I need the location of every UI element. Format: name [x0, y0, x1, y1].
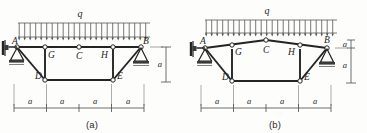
dim-label-b-1: a [215, 96, 219, 106]
figure-page: q [0, 0, 367, 133]
figure-b-caption: (b) [183, 119, 367, 130]
dim-label-a-2: a [60, 96, 64, 106]
label-G: G [235, 47, 242, 57]
label-D: D [221, 72, 229, 82]
label-E: E [116, 71, 123, 81]
hinge-D [43, 78, 47, 82]
label-A: A [11, 36, 18, 46]
vertical-dim-label-b-upper: a [343, 39, 347, 49]
dim-label-b-2: a [247, 96, 251, 106]
load-arrows-a [18, 23, 147, 41]
horizontal-dimension-a: a a a a [14, 84, 144, 112]
hinge-E [111, 78, 115, 82]
vertical-dimension-a: a [150, 47, 171, 82]
distributed-load-a: q [18, 8, 150, 41]
label-A: A [199, 36, 206, 46]
vertical-dim-label-b-lower: a [343, 60, 347, 70]
label-B: B [143, 36, 149, 46]
figure-a-caption: (a) [0, 119, 184, 130]
label-B: B [324, 35, 330, 45]
distributed-load-b: q [205, 5, 337, 37]
support-B-b [319, 49, 335, 67]
label-H: H [287, 47, 296, 57]
dim-label-a-1: a [28, 96, 32, 106]
support-B-a [133, 48, 149, 66]
label-G: G [48, 50, 55, 60]
vertical-dim-label-a: a [158, 59, 162, 69]
label-E: E [303, 72, 310, 82]
member-C-B [266, 40, 327, 48]
dim-label-a-3: a [93, 96, 97, 106]
dim-label-b-4: a [313, 96, 317, 106]
joint-labels-a: A G C H B D E [11, 36, 149, 81]
hinge-E [298, 79, 302, 83]
horizontal-dimension-b: a a a a [201, 85, 331, 112]
label-D: D [34, 71, 42, 81]
load-arrows-b [205, 20, 334, 37]
hinge-D [230, 79, 234, 83]
hinge-C [77, 45, 81, 49]
figure-b: q [183, 0, 367, 133]
figure-b-drawing: q [183, 0, 367, 120]
figure-a-drawing: q [0, 0, 184, 120]
hinge-C [264, 38, 268, 42]
vertical-dimensions-b: a a [335, 39, 356, 83]
hinge-G [230, 43, 234, 47]
figure-a: q [0, 0, 184, 133]
load-symbol-q-a: q [78, 8, 83, 19]
hinge-H [298, 43, 302, 47]
label-C: C [263, 45, 270, 55]
hinge-H [111, 45, 115, 49]
label-C: C [76, 51, 83, 61]
hinge-G [43, 45, 47, 49]
dim-label-b-3: a [280, 96, 284, 106]
dim-label-a-4: a [126, 96, 130, 106]
label-H: H [100, 50, 109, 60]
load-symbol-q-b: q [265, 5, 270, 16]
